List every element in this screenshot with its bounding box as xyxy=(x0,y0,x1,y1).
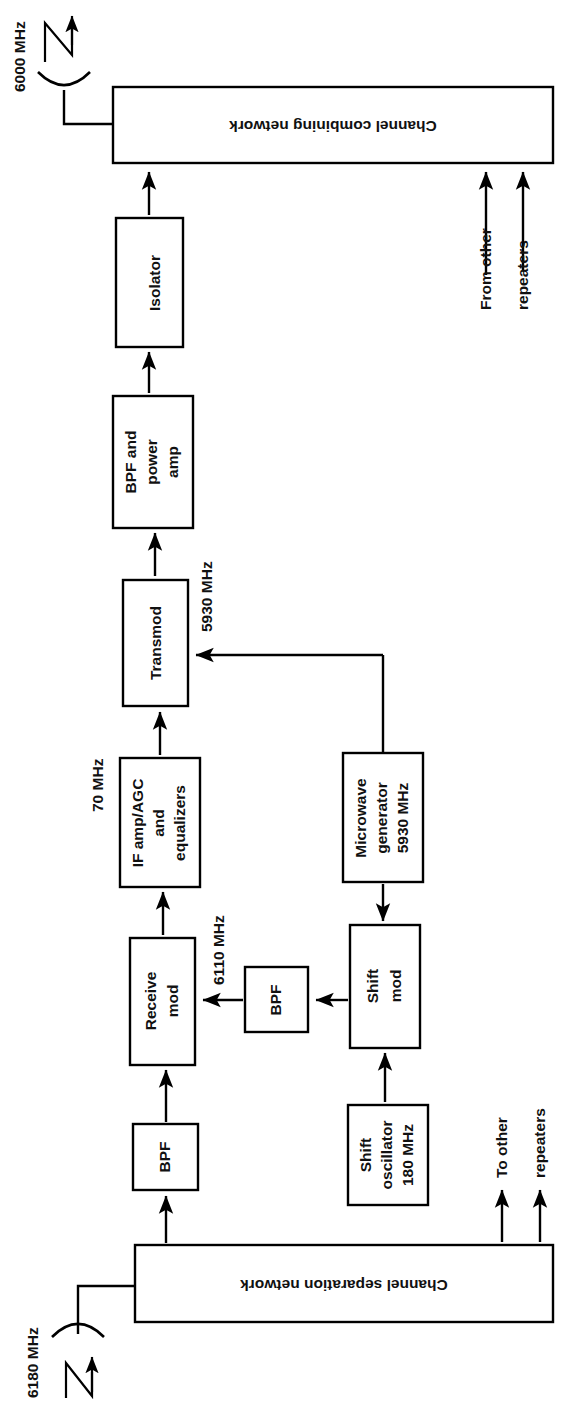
from-other-repeaters-group: From other repeaters xyxy=(477,172,531,310)
receive-feed-line xyxy=(78,1286,135,1334)
shift-oscillator-label-line2: oscillator xyxy=(378,1121,395,1190)
isolator-label: Isolator xyxy=(146,255,163,311)
to-other-repeaters-label-1: To other xyxy=(493,1117,510,1178)
shift-mod-label-line2: mod xyxy=(387,970,404,1003)
transmit-antenna-group: 6000 MHz xyxy=(11,16,113,124)
channel-combining-network-label: Channel combining network xyxy=(229,118,437,135)
bpf-and-power-amp-label-line3: amp xyxy=(164,446,181,478)
to-other-repeaters-label-2: repeaters xyxy=(531,1108,548,1178)
receive-mod-label-line1: Receive xyxy=(142,971,159,1030)
microwave-generator-label-line2: generator xyxy=(373,782,390,854)
microwave-generator-label-line1: Microwave xyxy=(352,778,369,858)
from-other-repeaters-label-1: From other xyxy=(477,228,494,310)
freq-70-label: 70 MHz xyxy=(89,758,106,812)
bpf-bottom-block: BPF xyxy=(133,1124,198,1190)
from-other-repeaters-label-2: repeaters xyxy=(514,240,531,310)
bpf-and-power-amp-block: BPF and power amp xyxy=(113,396,193,528)
isolator-block: Isolator xyxy=(116,218,183,347)
receive-mod-block: Receive mod xyxy=(130,938,195,1065)
block-diagram-canvas: 6000 MHz Channel combining network From … xyxy=(0,0,588,1405)
freq-5930-label: 5930 MHz xyxy=(198,561,215,632)
transmit-frequency-label: 6000 MHz xyxy=(11,21,28,92)
receive-mod-rect xyxy=(130,938,195,1065)
if-amp-label-line3: equalizers xyxy=(171,785,188,861)
if-amp-label-line2: and xyxy=(150,809,167,837)
transmit-beam-symbol-icon xyxy=(45,23,72,62)
shift-mod-label-line1: Shift xyxy=(364,969,381,1003)
if-amp-label-line1: IF amp/AGC xyxy=(129,779,146,868)
diagram-svg: 6000 MHz Channel combining network From … xyxy=(0,0,588,1405)
to-other-repeaters-group: To other repeaters xyxy=(493,1108,548,1242)
transmit-feed-line xyxy=(64,90,113,124)
receive-antenna-group: 6180 MHz xyxy=(24,1286,135,1398)
shift-mod-rect xyxy=(350,925,420,1048)
shift-oscillator-block: Shift oscillator 180 MHz xyxy=(348,1105,428,1205)
bpf-bottom-label: BPF xyxy=(156,1142,173,1173)
microwave-generator-block: Microwave generator 5930 MHz xyxy=(343,753,423,882)
receive-frequency-label: 6180 MHz xyxy=(24,1327,41,1398)
shift-oscillator-label-line3: 180 MHz xyxy=(399,1124,416,1186)
transmod-label: Transmod xyxy=(147,606,164,680)
freq-6110-label: 6110 MHz xyxy=(210,915,227,985)
bpf-and-power-amp-label-line2: power xyxy=(143,439,160,485)
bpf-mid-block: BPF xyxy=(245,967,308,1032)
shift-mod-block: Shift mod xyxy=(350,925,420,1048)
bpf-mid-label: BPF xyxy=(267,985,284,1016)
channel-combining-network-block: Channel combining network xyxy=(113,87,553,163)
transmit-dish-icon xyxy=(38,72,90,85)
channel-separation-network-block: Channel separation network xyxy=(135,1245,553,1322)
if-amp-agc-equalizers-block: IF amp/AGC and equalizers xyxy=(120,758,200,887)
bpf-and-power-amp-label-line1: BPF and xyxy=(122,431,139,494)
receive-beam-symbol-icon xyxy=(66,1363,92,1398)
shift-oscillator-label-line1: Shift xyxy=(357,1138,374,1172)
receive-mod-label-line2: mod xyxy=(164,985,181,1018)
channel-separation-network-label: Channel separation network xyxy=(240,1277,448,1294)
microwave-generator-label-line3: 5930 MHz xyxy=(394,782,411,853)
transmod-block: Transmod xyxy=(123,580,188,706)
